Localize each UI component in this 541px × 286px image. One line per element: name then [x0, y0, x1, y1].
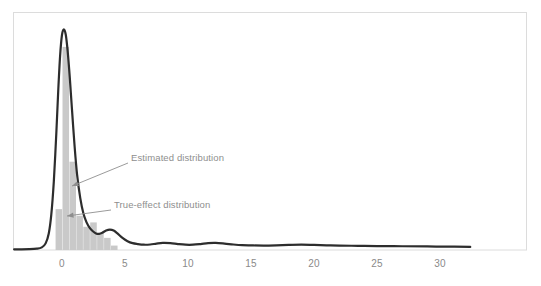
x-axis-tick-label: 25	[371, 258, 383, 269]
histogram-bar	[90, 222, 97, 250]
x-axis-tick-label: 15	[245, 258, 257, 269]
x-axis-tick-label: 30	[434, 258, 446, 269]
annotation-label: True-effect distribution	[114, 199, 210, 210]
distribution-chart-canvas	[0, 0, 541, 286]
histogram-bar	[97, 233, 104, 250]
histogram-bar	[63, 47, 70, 250]
histogram-bar	[76, 216, 83, 250]
plot-frame	[14, 13, 527, 251]
x-axis-tick-label: 10	[182, 258, 194, 269]
histogram-bar	[69, 162, 76, 250]
histogram-bar	[111, 246, 118, 250]
x-axis-tick-label: 5	[122, 258, 128, 269]
chart-figure: 051015202530 Estimated distributionTrue-…	[0, 0, 541, 286]
x-axis-tick-label: 0	[59, 258, 65, 269]
histogram-bar	[83, 227, 90, 250]
annotation-label: Estimated distribution	[131, 152, 224, 163]
x-axis-tick-label: 20	[308, 258, 320, 269]
histogram-bar	[104, 238, 111, 250]
histogram-bar	[56, 209, 63, 250]
